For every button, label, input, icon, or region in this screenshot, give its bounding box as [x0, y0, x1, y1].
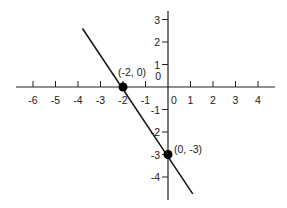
x-tick-label: -5 — [51, 94, 60, 106]
x-tick-label: 3 — [233, 94, 239, 106]
point-marker — [164, 150, 173, 159]
y-tick-label: 0 — [155, 70, 161, 82]
x-tick-label: 1 — [188, 94, 194, 106]
x-tick-label: -4 — [73, 94, 82, 106]
point-label: (0, -3) — [174, 143, 202, 155]
x-tick-label: -1 — [141, 94, 150, 106]
y-tick-label: 3 — [154, 14, 160, 26]
y-tick-label: -3 — [151, 149, 160, 161]
y-tick-label: 1 — [154, 59, 160, 71]
point-label: (-2, 0) — [118, 66, 146, 78]
y-tick-label: -1 — [151, 104, 160, 116]
point-marker — [119, 83, 128, 92]
x-tick-label: -2 — [118, 94, 127, 106]
x-tick-label: -3 — [96, 94, 105, 106]
y-tick-label: 2 — [154, 36, 160, 48]
x-tick-label: -6 — [28, 94, 37, 106]
x-tick-label: 2 — [210, 94, 216, 106]
x-tick-label: 0 — [171, 94, 177, 106]
plotted-line — [83, 29, 193, 194]
x-ticks: -6-5-4-3-2-101234 — [28, 81, 261, 106]
coordinate-plane: -6-5-4-3-2-101234 3210-1-2-3-4 (-2, 0)(0… — [0, 0, 287, 208]
y-tick-label: -4 — [151, 171, 160, 183]
x-tick-label: 4 — [255, 94, 261, 106]
